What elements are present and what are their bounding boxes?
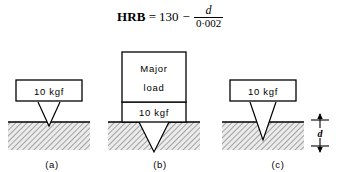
- minor-load-label: 10 kgf: [34, 86, 64, 97]
- formula-constant: 130: [159, 10, 179, 23]
- formula-fraction: d 0·002: [194, 4, 223, 29]
- panel-a-label: (a): [0, 159, 104, 170]
- formula-row: HRB = 130 − d 0·002: [117, 4, 223, 29]
- dimension-label-d: d: [318, 128, 324, 139]
- panel-a-graphic: 10 kgf: [0, 36, 104, 158]
- formula-lhs: HRB: [117, 10, 146, 23]
- formula-operator: −: [183, 10, 190, 23]
- major-load-label-line2: load: [144, 82, 165, 93]
- hardness-formula: HRB = 130 − d 0·002: [0, 4, 340, 29]
- dimension-arrowhead-down: [317, 147, 322, 153]
- panel-c-graphic: 10 kgf d: [216, 36, 340, 158]
- depth-dimension: d: [311, 113, 329, 153]
- major-load-label-line1: Major: [140, 63, 167, 74]
- formula-numerator: d: [201, 4, 215, 17]
- panel-a: 10 kgf (a): [0, 36, 104, 172]
- panel-b-label: (b): [104, 159, 216, 170]
- panel-c: 10 kgf d (c): [216, 36, 340, 172]
- panel-c-label: (c): [216, 159, 340, 170]
- minor-load-label: 10 kgf: [139, 107, 169, 118]
- dimension-arrowhead-up: [317, 113, 322, 119]
- major-load-box: [122, 52, 186, 102]
- diagram-area: 10 kgf (a) 10 kgf Major load (b): [0, 36, 340, 172]
- formula-denominator: 0·002: [194, 18, 223, 30]
- panel-b-graphic: 10 kgf Major load: [104, 36, 216, 158]
- minor-load-label: 10 kgf: [248, 86, 278, 97]
- formula-equals: =: [149, 10, 156, 23]
- panel-b: 10 kgf Major load (b): [104, 36, 216, 172]
